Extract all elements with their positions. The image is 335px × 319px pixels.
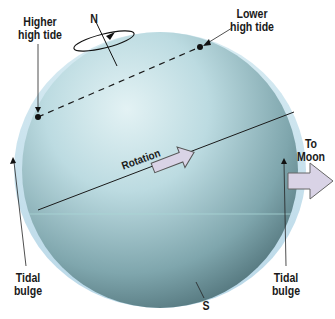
higher-high-tide-dot: [35, 114, 41, 120]
tide-diagram: Higher high tide Lower high tide N S To …: [0, 0, 335, 319]
lower-high-tide-label: Lower high tide: [224, 8, 280, 34]
to-moon-label: To Moon: [291, 138, 331, 164]
south-pole-label: S: [199, 300, 213, 313]
north-pole-label: N: [85, 13, 103, 26]
tidal-bulge-right-label: Tidal bulge: [267, 272, 306, 298]
lower-high-tide-dot: [197, 44, 203, 50]
higher-high-tide-label: Higher high tide: [12, 16, 68, 42]
tidal-bulge-left-label: Tidal bulge: [9, 272, 48, 298]
